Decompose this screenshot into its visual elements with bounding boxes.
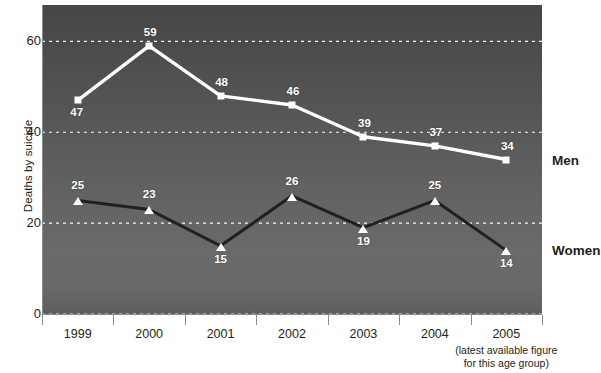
x-axis-tick-2003: 2003 [350,327,378,341]
data-label-men-2003: 39 [358,118,371,130]
data-label-women-2004: 25 [428,180,441,192]
x-axis-footnote-line-2: for this age group) [464,357,549,370]
chart-container: Deaths by suicide 0204060 47594846393734… [0,0,601,373]
x-axis-tick-2001: 2001 [207,327,235,341]
legend-label-women: Women [552,243,601,258]
data-point-men-2004 [431,142,438,149]
data-label-men-2005: 34 [501,141,514,153]
x-axis-tickmark [185,315,186,325]
y-axis-tick-40: 40 [7,125,41,138]
data-point-women-2003 [358,225,368,233]
x-axis-tickmark [256,315,257,325]
x-axis-tickmark [471,315,472,325]
x-axis-line [42,314,542,315]
data-point-men-2001 [217,92,224,99]
data-label-men-2000: 59 [144,27,157,39]
data-point-men-2000 [146,42,153,49]
data-label-women-2000: 23 [143,189,156,201]
x-axis-tick-2000: 2000 [135,327,163,341]
x-axis-tick-2005: 2005 [492,327,520,341]
x-axis-tickmark [113,315,114,325]
data-point-men-1999 [74,97,81,104]
plot-area [42,5,542,314]
y-axis-tick-60: 60 [7,34,41,47]
data-label-men-1999: 47 [70,107,83,119]
data-label-women-2002: 26 [286,176,299,188]
data-point-women-2004 [430,197,440,205]
x-axis-tickmark [399,315,400,325]
data-point-men-2005 [503,156,510,163]
data-label-men-2001: 48 [215,77,228,89]
x-axis-tick-2004: 2004 [421,327,449,341]
plot-svg [42,5,542,314]
x-axis-footnote-line-1: (latest available figure [455,344,557,357]
x-axis-tick-1999: 1999 [64,327,92,341]
x-axis-tick-2002: 2002 [278,327,306,341]
data-label-women-2003: 19 [357,236,370,248]
legend-label-men: Men [552,153,579,168]
y-axis-tick-0: 0 [7,307,41,320]
data-label-women-2001: 15 [214,254,227,266]
x-axis-tickmark [328,315,329,325]
y-axis-tick-labels: 0204060 [0,0,41,373]
data-label-men-2004: 37 [429,127,442,139]
x-axis-tickmark [42,315,43,325]
data-point-women-1999 [73,197,83,205]
y-axis-line [42,5,43,322]
data-point-men-2003 [360,133,367,140]
x-axis-tickmark [542,315,543,325]
data-label-men-2002: 46 [287,86,300,98]
data-point-women-2001 [216,243,226,251]
data-point-men-2002 [289,101,296,108]
data-label-women-1999: 25 [71,180,84,192]
data-point-women-2002 [287,193,297,201]
data-point-women-2000 [144,206,154,214]
data-label-women-2005: 14 [500,258,513,270]
y-axis-tick-20: 20 [7,216,41,229]
data-point-women-2005 [501,247,511,255]
